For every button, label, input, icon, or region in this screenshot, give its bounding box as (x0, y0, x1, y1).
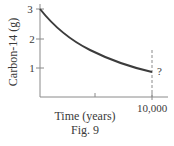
x-tick-label-10000: 10,000 (137, 102, 168, 114)
y-tick-label-1: 1 (29, 62, 35, 74)
figure-caption: Fig. 9 (71, 123, 99, 137)
carbon-14-decay-chart: 3 2 1 Carbon-14 (g) ? 10,000 Time (years… (0, 0, 174, 146)
unknown-value-marker: ? (157, 65, 162, 77)
x-axis-label: Time (years) (54, 109, 115, 123)
y-axis-label: Carbon-14 (g) (6, 18, 20, 86)
decay-curve (40, 9, 152, 72)
y-tick-label-3: 3 (27, 3, 33, 15)
y-tick-label-2: 2 (29, 33, 35, 45)
